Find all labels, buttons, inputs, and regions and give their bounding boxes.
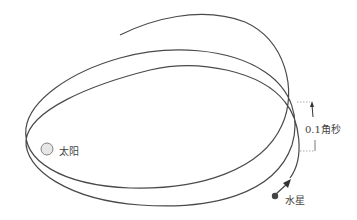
- diagram-canvas: 太阳 水星 0.1角秒: [0, 0, 357, 220]
- sun-icon: [41, 143, 53, 155]
- orbit-spiral: [26, 14, 299, 205]
- mercury-dot: [272, 193, 278, 199]
- orbit-diagram: [0, 0, 357, 220]
- sun-label: 太阳: [59, 143, 79, 158]
- shift-label: 0.1角秒: [305, 121, 341, 136]
- arrow-up-icon: [310, 101, 314, 107]
- mercury-label: 水星: [285, 192, 305, 207]
